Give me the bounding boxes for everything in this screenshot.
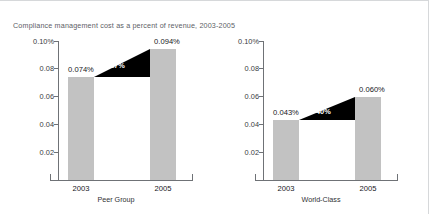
chart-panel-world-class: 0.10% 0.08 0.06 0.04 0.02 40% 0.043% 0.0… [215,37,405,202]
x-axis-right-cap [397,174,398,181]
y-tick-mark-1 [259,68,263,69]
chart-title: Compliance management cost as a percent … [13,21,235,30]
x-tick-label-2005: 2005 [360,184,377,193]
y-tick-mark-4 [54,152,58,153]
y-tick-label-4: 0.02 [0,148,54,157]
y-tick-mark-3 [259,124,263,125]
y-tick-mark-3 [54,124,58,125]
y-tick-label-3: 0.04 [199,120,259,129]
y-tick-label-2: 0.06 [0,92,54,101]
y-tick-label-0: 0.10% [0,37,54,46]
plot-area-peer-group: 0.10% 0.08 0.06 0.04 0.02 27% 0.074% 0.0… [10,37,200,202]
x-axis-left-cap [50,174,51,181]
y-axis-line [58,41,59,180]
y-tick-mark-2 [259,96,263,97]
y-tick-label-1: 0.08 [0,64,54,73]
chart-figure: Compliance management cost as a percent … [0,0,429,214]
y-tick-mark-0 [54,41,58,42]
x-axis-left-cap [255,174,256,181]
panel-axis-title-world-class: World-Class [215,195,405,204]
x-axis-line [50,180,193,181]
bar-2005[interactable] [355,97,381,180]
x-axis-line [255,180,398,181]
x-tick-label-2005: 2005 [155,184,172,193]
y-tick-label-2: 0.06 [199,92,259,101]
delta-percent-label: 27% [110,61,125,70]
x-axis-right-cap [192,174,193,181]
data-label-2005: 0.060% [359,85,385,94]
bar-2005[interactable] [150,49,176,180]
y-tick-mark-1 [54,68,58,69]
y-tick-mark-4 [259,152,263,153]
y-tick-label-3: 0.04 [0,120,54,129]
y-tick-label-0: 0.10% [199,37,259,46]
panel-axis-title-peer-group: Peer Group [10,195,200,204]
x-tick-label-2003: 2003 [73,184,90,193]
data-label-2003: 0.043% [273,108,299,117]
x-tick-label-2003: 2003 [278,184,295,193]
plot-area-world-class: 0.10% 0.08 0.06 0.04 0.02 40% 0.043% 0.0… [215,37,405,202]
bar-2003[interactable] [273,120,299,180]
y-tick-mark-0 [259,41,263,42]
data-label-2003: 0.074% [68,65,94,74]
data-label-2005: 0.094% [154,37,180,46]
y-tick-label-1: 0.08 [199,64,259,73]
y-tick-label-4: 0.02 [199,148,259,157]
chart-panel-peer-group: 0.10% 0.08 0.06 0.04 0.02 27% 0.074% 0.0… [10,37,200,202]
bar-2003[interactable] [68,77,94,180]
y-axis-line [263,41,264,180]
delta-percent-label: 40% [316,107,331,116]
y-tick-mark-2 [54,96,58,97]
